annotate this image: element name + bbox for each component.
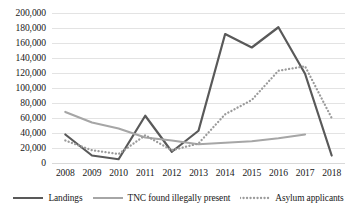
y-axis-tick-label: 80,000 xyxy=(20,98,46,108)
x-axis-tick-label: 2012 xyxy=(159,166,186,182)
plot-area xyxy=(52,13,345,163)
series-line xyxy=(65,112,305,144)
x-axis-tick-label: 2015 xyxy=(238,166,265,182)
y-axis-tick-label: 0 xyxy=(41,158,46,168)
gridline xyxy=(52,163,345,164)
legend-item[interactable]: Landings xyxy=(13,193,82,203)
legend-label: Asylum applicants xyxy=(275,193,343,203)
line-chart: 020,00040,00060,00080,000100,000120,0001… xyxy=(0,0,357,212)
chart-legend: LandingsTNC found illegally presentAsylu… xyxy=(0,188,357,208)
x-axis-tick-label: 2013 xyxy=(185,166,212,182)
x-axis-tick-label: 2018 xyxy=(318,166,345,182)
legend-label: TNC found illegally present xyxy=(128,193,231,203)
legend-swatch xyxy=(13,194,43,202)
x-axis: 2008200920102011201220132014201520162017… xyxy=(52,166,345,182)
x-axis-tick-label: 2014 xyxy=(212,166,239,182)
y-axis-tick-label: 20,000 xyxy=(20,143,46,153)
y-axis-tick-label: 180,000 xyxy=(16,23,46,33)
x-axis-tick-label: 2010 xyxy=(105,166,132,182)
y-axis: 020,00040,00060,00080,000100,000120,0001… xyxy=(0,0,50,176)
x-axis-tick-label: 2009 xyxy=(79,166,106,182)
legend-swatch xyxy=(240,194,270,202)
x-axis-tick-label: 2016 xyxy=(265,166,292,182)
legend-label: Landings xyxy=(48,193,82,203)
series-line xyxy=(65,66,331,154)
y-axis-tick-label: 40,000 xyxy=(20,128,46,138)
legend-item[interactable]: Asylum applicants xyxy=(240,193,343,203)
legend-item[interactable]: TNC found illegally present xyxy=(93,193,231,203)
y-axis-tick-label: 60,000 xyxy=(20,113,46,123)
x-axis-tick-label: 2011 xyxy=(132,166,159,182)
x-axis-tick-label: 2017 xyxy=(292,166,319,182)
x-axis-tick-label: 2008 xyxy=(52,166,79,182)
y-axis-tick-label: 100,000 xyxy=(16,83,46,93)
series-line xyxy=(65,27,331,159)
y-axis-tick-label: 160,000 xyxy=(16,38,46,48)
y-axis-tick-label: 120,000 xyxy=(16,68,46,78)
legend-swatch xyxy=(93,194,123,202)
y-axis-tick-label: 140,000 xyxy=(16,53,46,63)
y-axis-tick-label: 200,000 xyxy=(16,8,46,18)
series-layer xyxy=(52,13,345,163)
